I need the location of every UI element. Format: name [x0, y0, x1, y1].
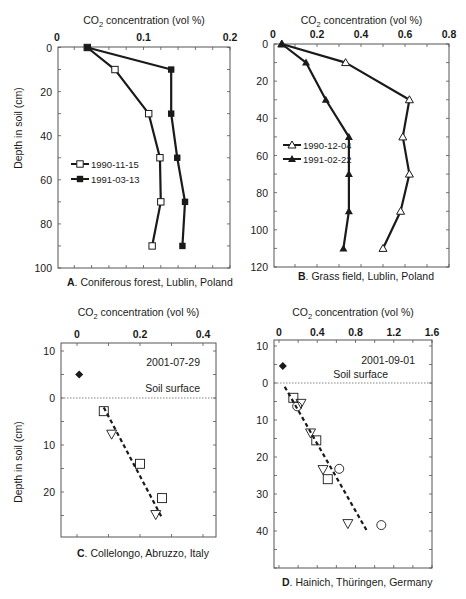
panel-c: 00.20.4CO2 concentration (vol %)1001020D…	[12, 306, 216, 559]
y-tick-label: 0	[49, 392, 55, 404]
triangle-open-marker-icon	[379, 244, 387, 251]
x-tick-label: 0	[270, 28, 276, 40]
y-tick-label: 10	[256, 340, 268, 352]
panel-caption: A. Coniferous forest, Lublin, Poland	[67, 276, 233, 288]
square-open-marker-icon	[145, 110, 151, 116]
co2-depth-profile-figure: 00.10.2CO2 concentration (vol %)02040608…	[0, 0, 466, 599]
x-tick-label: 1.2	[386, 326, 401, 338]
triangle-down-open-marker-icon	[318, 466, 328, 475]
diamond-filled-marker-icon	[75, 371, 83, 379]
trend-line	[104, 407, 162, 517]
y-tick-label: 30	[256, 488, 268, 500]
y-axis-title: Depth in soil (cm)	[12, 87, 24, 169]
x-tick-label: 0	[74, 328, 80, 340]
y-tick-label: 20	[43, 486, 55, 498]
y-tick-label: 80	[40, 218, 52, 230]
series-triangles	[296, 399, 353, 528]
square-open-lg-marker-icon	[158, 494, 167, 503]
square-open-lg-marker-icon	[136, 459, 145, 468]
y-tick-label: 0	[262, 377, 268, 389]
y-axis-title: Depth in soil (cm)	[12, 421, 24, 503]
y-tick-label: 10	[43, 439, 55, 451]
date-label: 2001-07-29	[146, 356, 200, 368]
y-tick-label: 120	[250, 261, 268, 273]
x-tick-label: 0.4	[310, 326, 325, 338]
triangle-filled-marker-icon	[345, 207, 353, 214]
x-axis-title: CO2 concentration (vol %)	[301, 14, 422, 29]
panel-b: 00.20.40.60.8CO2 concentration (vol %)02…	[250, 14, 456, 282]
square-open-marker-icon	[157, 155, 163, 161]
series-1990-11-15	[84, 44, 164, 249]
y-tick-label: 20	[256, 451, 268, 463]
y-tick-label: 10	[256, 414, 268, 426]
soil-surface-label: Soil surface	[145, 382, 200, 394]
legend-label: 1990-11-15	[91, 159, 139, 170]
series-atmosphere	[279, 362, 287, 370]
square-filled-marker-icon	[168, 110, 174, 116]
x-tick-label: 1.6	[425, 326, 440, 338]
triangle-down-open-marker-icon	[343, 520, 353, 529]
plot-frame	[58, 47, 230, 268]
x-tick-label: 0.4	[354, 28, 369, 40]
plot-frame	[61, 343, 216, 537]
x-axis-title: CO2 concentration (vol %)	[83, 14, 204, 29]
x-axis-title: CO2 concentration (vol %)	[292, 306, 413, 321]
y-tick-label: 60	[40, 174, 52, 186]
series-triangles	[107, 430, 161, 519]
square-open-marker-icon	[149, 243, 155, 249]
y-tick-label: 40	[256, 525, 268, 537]
legend: 1990-12-041991-02-22	[283, 140, 352, 165]
panel-caption: D. Hainich, Thüringen, Germany	[282, 576, 433, 588]
legend-label: 1991-03-13	[91, 174, 140, 185]
series-squares	[99, 407, 166, 503]
y-tick-label: 10	[43, 345, 55, 357]
y-tick-label: 20	[40, 86, 52, 98]
legend-label: 1991-02-22	[303, 154, 352, 165]
y-tick-label: 40	[256, 112, 268, 124]
triangle-open-marker-icon	[399, 133, 407, 140]
x-tick-label: 0.2	[133, 328, 148, 340]
plot-frame	[274, 44, 449, 267]
series-circles	[293, 402, 386, 530]
square-filled-marker-icon	[77, 176, 83, 182]
triangle-down-open-marker-icon	[107, 430, 117, 439]
square-filled-marker-icon	[179, 243, 185, 249]
x-tick-label: 0.8	[442, 28, 457, 40]
x-tick-label: 0.8	[348, 326, 363, 338]
x-tick-label: 0	[276, 326, 282, 338]
x-tick-label: 0.6	[398, 28, 413, 40]
x-tick-label: 0.2	[310, 28, 325, 40]
circle-open-marker-icon	[377, 521, 386, 530]
square-open-marker-icon	[77, 161, 83, 167]
series-line	[87, 48, 185, 246]
triangle-open-marker-icon	[397, 207, 405, 214]
x-axis-title: CO2 concentration (vol %)	[78, 306, 199, 321]
date-label: 2001-09-01	[361, 354, 415, 366]
y-tick-label: 80	[256, 187, 268, 199]
square-open-marker-icon	[158, 199, 164, 205]
triangle-down-open-marker-icon	[151, 511, 161, 520]
y-tick-label: 0	[46, 42, 52, 54]
y-tick-label: 100	[250, 224, 268, 236]
series-atmosphere	[75, 371, 83, 379]
legend: 1990-11-151991-03-13	[71, 159, 140, 185]
panel-d: 00.40.81.21.6CO2 concentration (vol %)10…	[256, 306, 439, 588]
square-filled-marker-icon	[174, 155, 180, 161]
series-line	[87, 48, 161, 246]
panel-a: 00.10.2CO2 concentration (vol %)02040608…	[12, 14, 237, 288]
square-filled-marker-icon	[84, 44, 90, 50]
legend-label: 1990-12-04	[303, 140, 352, 151]
x-tick-label: 0.4	[196, 328, 211, 340]
series-1991-03-13	[84, 44, 188, 249]
triangle-filled-marker-icon	[339, 244, 347, 251]
triangle-filled-marker-icon	[345, 170, 353, 177]
x-tick-label: 0.2	[223, 31, 238, 43]
circle-open-marker-icon	[335, 464, 344, 473]
x-tick-label: 0	[54, 31, 60, 43]
diamond-filled-marker-icon	[279, 362, 287, 370]
y-tick-label: 20	[256, 75, 268, 87]
x-tick-label: 0.1	[136, 31, 151, 43]
square-open-lg-marker-icon	[323, 475, 332, 484]
y-tick-label: 60	[256, 150, 268, 162]
y-tick-label: 40	[40, 130, 52, 142]
